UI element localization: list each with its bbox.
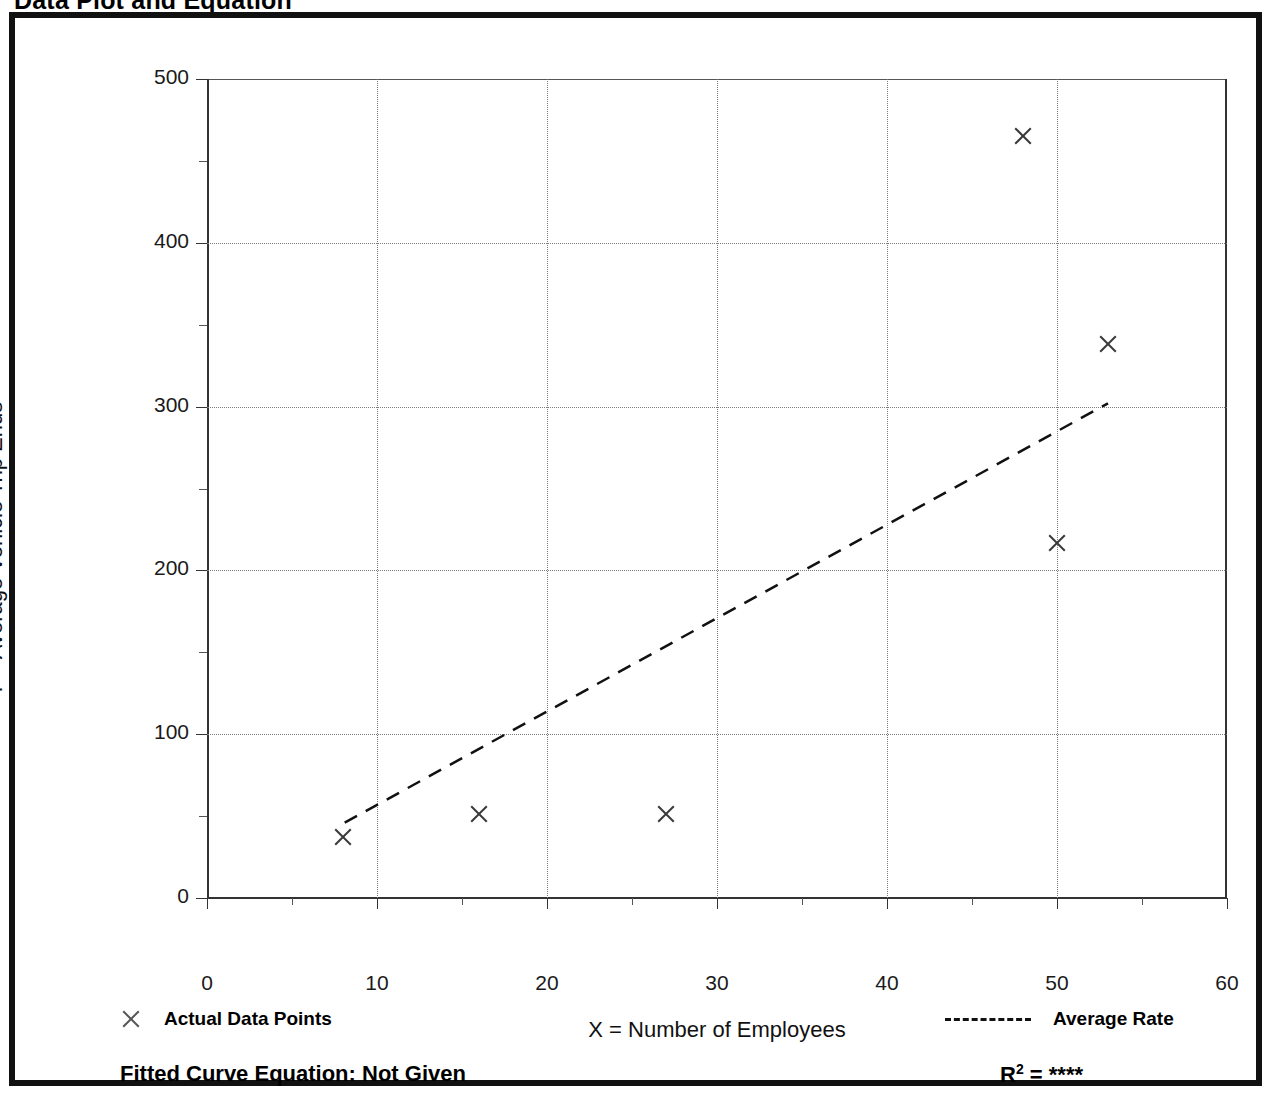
x-tick-minor xyxy=(1142,898,1143,905)
legend-line-label: Average Rate xyxy=(1053,1008,1174,1030)
x-tick-minor xyxy=(462,898,463,905)
data-point-marker xyxy=(468,803,490,825)
average-rate-line xyxy=(207,79,1227,898)
x-tick-label: 10 xyxy=(347,971,407,995)
legend-average-rate: Average Rate xyxy=(945,1008,1174,1030)
y-tick-major xyxy=(196,79,207,80)
y-tick-label: 400 xyxy=(119,229,189,253)
x-tick-label: 0 xyxy=(177,971,237,995)
x-tick-minor xyxy=(802,898,803,905)
x-tick-major xyxy=(547,898,548,909)
fitted-curve-equation: Fitted Curve Equation: Not Given xyxy=(120,1061,466,1087)
y-tick-minor xyxy=(199,489,207,490)
x-tick-major xyxy=(1227,898,1228,909)
chart-frame: T = Average Vehicle Trip Ends 0102030405… xyxy=(9,12,1262,1086)
legend-points-label: Actual Data Points xyxy=(164,1008,332,1030)
r-squared-exponent: 2 xyxy=(1016,1061,1024,1077)
x-marker-icon xyxy=(120,1008,142,1030)
y-tick-label: 500 xyxy=(119,65,189,89)
y-tick-minor xyxy=(199,652,207,653)
y-tick-label: 300 xyxy=(119,393,189,417)
r-squared-prefix: R xyxy=(1000,1062,1016,1087)
y-axis-title: T = Average Vehicle Trip Ends xyxy=(0,402,8,697)
x-tick-label: 60 xyxy=(1197,971,1257,995)
x-tick-minor xyxy=(972,898,973,905)
y-tick-major xyxy=(196,734,207,735)
x-tick-minor xyxy=(632,898,633,905)
y-tick-label: 100 xyxy=(119,720,189,744)
y-tick-minor xyxy=(199,325,207,326)
plot-area: 01020304050600100200300400500 X = Number… xyxy=(207,79,1227,898)
x-tick-major xyxy=(717,898,718,909)
x-tick-major xyxy=(887,898,888,909)
data-point-marker xyxy=(332,826,354,848)
y-tick-label: 200 xyxy=(119,556,189,580)
x-tick-label: 30 xyxy=(687,971,747,995)
legend-actual-data-points: Actual Data Points xyxy=(120,1008,332,1030)
y-tick-major xyxy=(196,570,207,571)
x-tick-minor xyxy=(292,898,293,905)
data-point-marker xyxy=(655,803,677,825)
data-point-marker xyxy=(1046,532,1068,554)
y-tick-label: 0 xyxy=(119,884,189,908)
y-tick-major xyxy=(196,898,207,899)
x-tick-label: 20 xyxy=(517,971,577,995)
y-tick-major xyxy=(196,243,207,244)
y-tick-major xyxy=(196,407,207,408)
x-tick-major xyxy=(1057,898,1058,909)
x-tick-major xyxy=(207,898,208,909)
x-tick-label: 50 xyxy=(1027,971,1087,995)
y-tick-minor xyxy=(199,161,207,162)
r-squared-value: R2 = **** xyxy=(1000,1061,1083,1088)
r-squared-number: = **** xyxy=(1030,1062,1083,1087)
dashed-line-icon xyxy=(945,1018,1031,1021)
data-point-marker xyxy=(1012,125,1034,147)
x-tick-major xyxy=(377,898,378,909)
y-tick-minor xyxy=(199,816,207,817)
data-point-marker xyxy=(1097,333,1119,355)
fit-line-segment xyxy=(345,403,1108,822)
x-tick-label: 40 xyxy=(857,971,917,995)
